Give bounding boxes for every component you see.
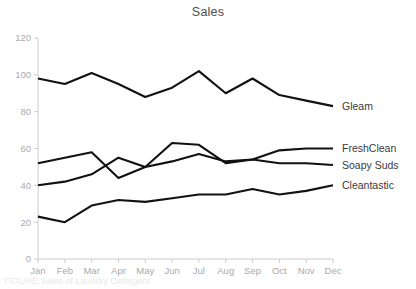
series-line-gleam	[38, 71, 333, 106]
series-label-gleam: Gleam	[342, 100, 373, 112]
x-tick-label: Mar	[83, 265, 99, 276]
y-tick-label: 80	[20, 106, 31, 117]
y-tick-label: 100	[15, 69, 31, 80]
y-tick-label: 60	[20, 143, 31, 154]
series-line-cleantastic	[38, 185, 333, 222]
x-axis: JanFebMarAprMayJunJulAugSepOctNovDec	[30, 259, 341, 276]
y-tick-label: 20	[20, 217, 31, 228]
x-tick-label: Feb	[57, 265, 73, 276]
x-tick-label: Jan	[30, 265, 45, 276]
y-tick-label: 0	[26, 253, 31, 264]
figure-caption: FIGURE Sales of Laundry Detergent	[4, 276, 150, 286]
x-tick-label: Sep	[244, 265, 261, 276]
series-labels: GleamFreshCleanSoapy SudsCleantastic	[342, 100, 399, 191]
series-line-soapy-suds	[38, 154, 333, 185]
series-line-freshclean	[38, 143, 333, 178]
x-tick-label: Nov	[298, 265, 315, 276]
sales-line-chart: Sales 020406080100120 JanFebMarAprMayJun…	[0, 0, 416, 289]
y-tick-label: 40	[20, 180, 31, 191]
x-tick-label: Apr	[111, 265, 126, 276]
y-tick-label: 120	[15, 32, 31, 43]
series-label-freshclean: FreshClean	[342, 142, 396, 154]
y-axis: 020406080100120	[15, 32, 38, 264]
x-tick-label: May	[136, 265, 154, 276]
chart-plot-area: 020406080100120 JanFebMarAprMayJunJulAug…	[0, 0, 416, 289]
x-tick-label: Jun	[164, 265, 179, 276]
series-label-cleantastic: Cleantastic	[342, 179, 394, 191]
x-tick-label: Dec	[325, 265, 342, 276]
x-tick-label: Oct	[272, 265, 287, 276]
series-label-soapy-suds: Soapy Suds	[342, 159, 399, 171]
series-lines	[38, 71, 333, 222]
x-tick-label: Jul	[193, 265, 205, 276]
x-tick-label: Aug	[217, 265, 234, 276]
